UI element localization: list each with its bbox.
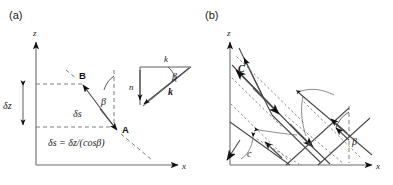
figure-root: (a) z x δz B A δs [0, 0, 393, 185]
panel-a-x-axis-label: x [181, 161, 186, 171]
panel-a-beta-label: β [100, 96, 106, 107]
panel-b-x-axis-label: x [375, 161, 380, 171]
panel-a-equation: δs = δz/(cosβ) [48, 137, 105, 149]
panel-a-delta-z-label: δz [3, 100, 12, 111]
panel-b-flux-upper-label: C [238, 63, 245, 74]
panel-b-z-axis-label: z [226, 28, 231, 38]
panel-a-tag: (a) [9, 9, 22, 21]
panel-b-tag: (b) [205, 9, 218, 21]
panel-a-delta-s-label: δs [73, 108, 82, 119]
panel-a-point-b-label: B [79, 70, 86, 81]
panel-a-z-axis-label: z [32, 28, 37, 38]
panel-b-beta-label: β [351, 136, 357, 147]
figure-svg: (a) z x δz B A δs [0, 0, 393, 185]
panel-a-point-a-label: A [122, 124, 129, 135]
inset-beta-label: β [171, 71, 177, 82]
inset-k-vector-label: k [168, 86, 173, 97]
canvas-background [0, 0, 393, 185]
inset-n-label: n [129, 82, 134, 92]
